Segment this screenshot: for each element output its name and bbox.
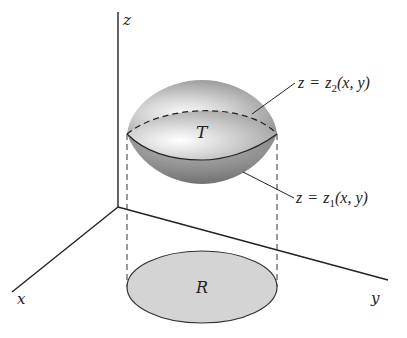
diagram-canvas: R T z = z2(x, y) z = z1(x, y) z x y	[0, 0, 407, 338]
eq2-equals: =	[310, 74, 319, 91]
eq1-equals: =	[308, 189, 317, 206]
region-r: R	[127, 251, 277, 323]
eq1-lhs: z	[295, 189, 303, 206]
eq1-args: (x, y)	[335, 189, 368, 207]
lower-surface-equation: z = z1(x, y)	[295, 189, 368, 209]
lower-surface-leader	[243, 172, 294, 198]
upper-surface-leader	[252, 83, 295, 114]
y-axis-label: y	[370, 289, 380, 307]
x-axis	[12, 207, 118, 292]
x-axis-label: x	[17, 290, 26, 308]
z-axis-label: z	[122, 11, 131, 29]
region-r-label: R	[195, 278, 208, 297]
eq2-args: (x, y)	[337, 74, 370, 92]
solid-t: T	[127, 80, 277, 184]
solid-t-label: T	[196, 122, 209, 142]
upper-surface-equation: z = z2(x, y)	[297, 74, 370, 94]
eq2-lhs: z	[297, 74, 305, 91]
